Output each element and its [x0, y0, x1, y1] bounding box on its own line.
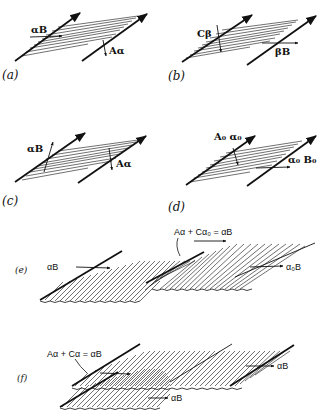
label-transmitted: βB [275, 46, 290, 57]
hatch-lines [190, 141, 302, 182]
caption-f: (f) [17, 373, 28, 383]
panel-e: Aα + Cα₀ = αB αB α₀B (e) [15, 227, 315, 303]
pointer-equation [75, 359, 87, 373]
label-reflected: Aα [115, 158, 132, 169]
arrow-left [76, 267, 110, 268]
arrow-incident [30, 36, 62, 37]
panel-c: αB Aα (c) [2, 133, 146, 208]
boundary-right [247, 16, 316, 65]
label-incident: Cβ [197, 28, 212, 39]
wavy-edge-left [40, 301, 140, 303]
boundary-left [15, 13, 80, 61]
wavy-edge-bottom [60, 408, 160, 410]
boundary-right [235, 243, 315, 277]
label-equation: Aα + Cα = αB [47, 349, 102, 359]
figure-root: αB Aα (a) Cβ βB (b) [0, 0, 321, 417]
label-right: αB [277, 361, 288, 371]
label-reflected: Aα [108, 45, 125, 56]
boundary-left [40, 251, 122, 300]
caption-c: (c) [2, 194, 18, 208]
caption-e: (e) [15, 265, 28, 275]
label-incident: αB [27, 143, 43, 154]
arrow-reflected [103, 40, 106, 56]
panel-b: Cβ βB (b) [168, 15, 316, 83]
arrow-right [256, 167, 290, 168]
panel-a: αB Aα (a) [2, 13, 147, 82]
panel-d: A₀ α₀ α₀ B₀ (d) [168, 131, 317, 214]
hatch-region-left [45, 261, 195, 301]
hatch-region-right [160, 244, 305, 289]
arrow-top [100, 373, 130, 374]
wavy-edge-right [152, 289, 252, 291]
panel-f: Aα + Cα = αB αB αB (f) [17, 344, 294, 410]
label-right: α₀B [286, 262, 301, 272]
caption-b: (b) [168, 69, 185, 83]
boundary-left [186, 136, 255, 185]
label-equation: Aα + Cα₀ = αB [174, 227, 232, 237]
caption-d: (d) [168, 200, 185, 214]
pointer-equation [177, 238, 180, 256]
boundary-middle [146, 252, 204, 283]
label-left: αB [47, 262, 58, 272]
label-left: A₀ α₀ [213, 131, 242, 142]
arrow-right [250, 266, 283, 267]
label-incident: αB [31, 24, 47, 35]
label-right: α₀ B₀ [288, 154, 317, 165]
wavy-edge-top [72, 388, 242, 390]
label-bottom: αB [171, 393, 182, 403]
caption-a: (a) [2, 68, 19, 82]
